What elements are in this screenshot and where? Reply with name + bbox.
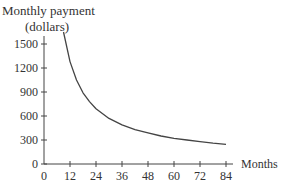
x-tick-label: 84 xyxy=(220,169,232,183)
x-tick-label: 60 xyxy=(168,169,180,183)
x-tick-label: 48 xyxy=(142,169,154,183)
chart-plot: 030060090012001500012243648607284Months xyxy=(0,0,286,191)
payment-curve xyxy=(64,32,227,144)
x-tick-label: 72 xyxy=(194,169,206,183)
y-tick-label: 300 xyxy=(20,133,38,147)
y-tick-label: 0 xyxy=(32,157,38,171)
x-tick-label: 36 xyxy=(116,169,128,183)
x-tick-label: 24 xyxy=(90,169,102,183)
y-tick-label: 1200 xyxy=(14,61,38,75)
y-tick-label: 900 xyxy=(20,85,38,99)
x-tick-label: 0 xyxy=(41,169,47,183)
y-tick-label: 1500 xyxy=(14,37,38,51)
x-tick-label: 12 xyxy=(64,169,76,183)
x-axis-title: Months xyxy=(241,157,278,171)
y-tick-label: 600 xyxy=(20,109,38,123)
